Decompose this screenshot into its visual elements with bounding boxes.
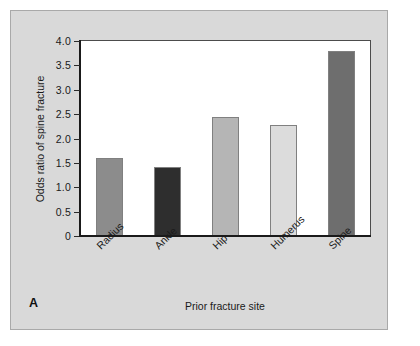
bar-series — [80, 41, 370, 236]
y-axis-tick-label: 1.5 — [56, 157, 71, 169]
panel-label: A — [29, 296, 38, 310]
figure-panel: Odds ratio of spine fracture 00.51.01.52… — [10, 10, 388, 330]
y-axis-tick-label: 0.5 — [56, 206, 71, 218]
y-axis-tick-label: 0 — [65, 230, 71, 242]
figure-container: Odds ratio of spine fracture 00.51.01.52… — [0, 0, 420, 346]
bar — [328, 51, 355, 236]
y-axis-title-text: Odds ratio of spine fracture — [34, 75, 46, 202]
bar — [154, 167, 181, 236]
y-axis-tick — [74, 236, 80, 237]
y-axis-tick-label: 4.0 — [56, 35, 71, 47]
plot-area: 00.51.01.52.02.53.03.54.0 — [79, 40, 371, 237]
x-axis-title: Prior fracture site — [79, 300, 371, 312]
y-axis-tick-label: 3.5 — [56, 59, 71, 71]
x-axis-title-text: Prior fracture site — [185, 300, 265, 312]
y-axis-tick-label: 2.5 — [56, 108, 71, 120]
y-axis-tick-label: 2.0 — [56, 133, 71, 145]
y-axis-tick-label: 3.0 — [56, 84, 71, 96]
y-axis-title: Odds ratio of spine fracture — [33, 40, 47, 237]
y-axis-tick-label: 1.0 — [56, 181, 71, 193]
bar — [212, 117, 239, 236]
